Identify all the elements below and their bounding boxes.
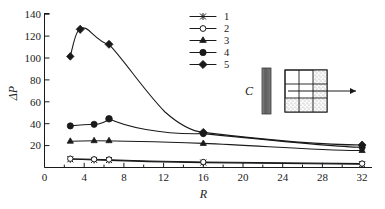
delta-p-vs-r-line-chart: 20 40 60 80 100 120 140 0 4 8 12 16 20 2… [0,0,385,209]
legend-item-5[interactable]: 5 [190,59,229,70]
inset-label-c: C [245,84,254,98]
open-circle-marker-icon [200,26,206,32]
x-tick-labels: 0 4 8 12 16 20 24 28 32 [42,171,368,183]
legend-label-3: 3 [224,35,229,46]
y-tick-label: 20 [30,139,42,151]
x-tick-label: 32 [357,171,368,183]
legend-label-2: 2 [224,23,229,34]
x-tick-label: 20 [238,171,250,183]
y-tick-label: 60 [30,96,42,108]
x-tick-label: 24 [277,171,289,183]
legend-label-4: 4 [224,47,230,58]
y-tick-marks [45,14,50,145]
x-tick-label: 12 [158,171,169,183]
y-tick-label: 40 [30,118,42,130]
y-tick-labels: 20 40 60 80 100 120 140 [25,8,42,151]
series-4 [67,116,365,151]
x-tick-label: 0 [42,171,48,183]
legend-item-4[interactable]: 4 [190,47,230,58]
y-tick-label: 80 [30,74,42,86]
legend-label-1: 1 [224,11,229,22]
y-tick-label: 140 [25,8,42,20]
legend-label-5: 5 [224,59,229,70]
x-tick-label: 4 [81,171,87,183]
x-tick-label: 8 [121,171,127,183]
legend-item-1[interactable]: 1 [190,11,229,22]
x-tick-label: 16 [198,171,210,183]
filled-diamond-marker-icon [199,60,207,68]
filled-circle-marker-icon [200,49,206,55]
filled-triangle-marker-icon [200,37,207,43]
chart-legend: 1 2 3 4 5 [190,11,230,70]
y-tick-label: 100 [25,52,42,64]
chart-figure: 20 40 60 80 100 120 140 0 4 8 12 16 20 2… [0,0,385,209]
inset-vertical-bar [262,68,271,114]
x-tick-label: 28 [317,171,329,183]
y-tick-label: 120 [25,30,42,42]
y-axis-title: ΔP [6,85,20,101]
legend-item-3[interactable]: 3 [190,35,229,46]
legend-item-2[interactable]: 2 [190,23,229,34]
series-3-line [70,141,362,151]
x-axis-title: R [199,187,208,201]
inset-schematic: C [245,68,356,114]
